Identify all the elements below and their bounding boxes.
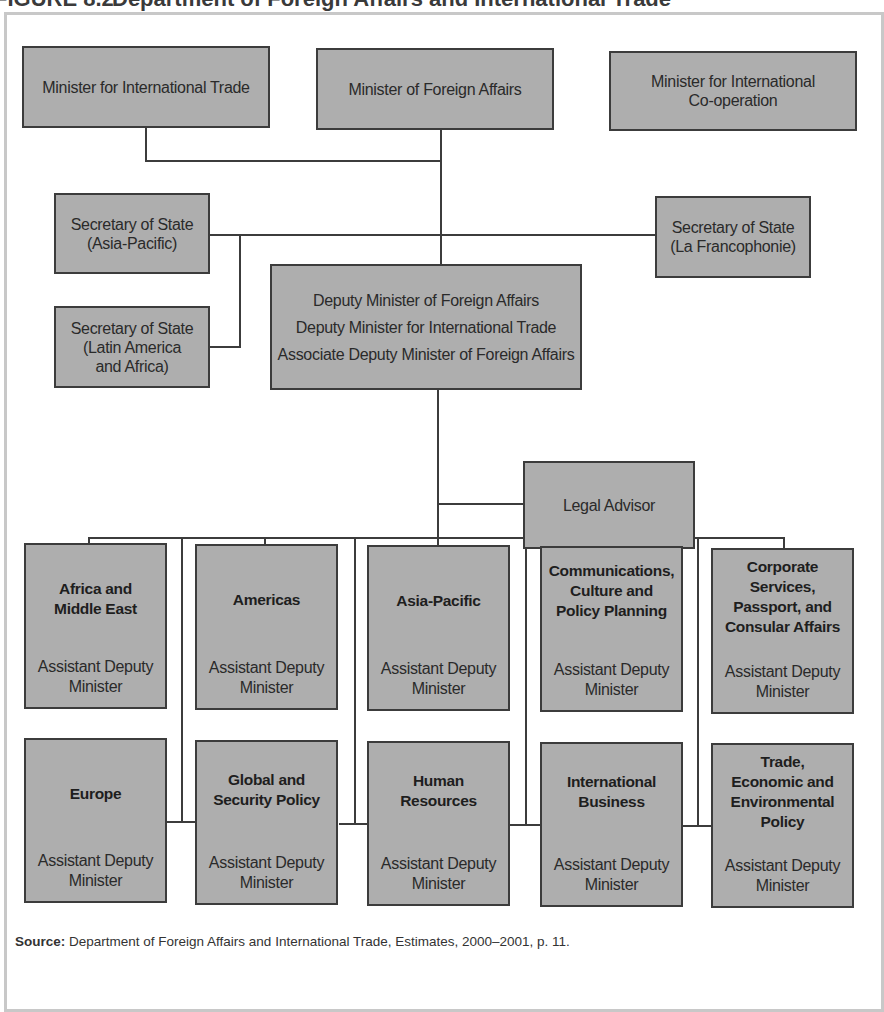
connector-trade-minister-drop xyxy=(145,126,147,162)
connector-long-4 xyxy=(697,537,699,827)
connector-stub-1 xyxy=(166,821,196,823)
unit-role-line: Assistant Deputy xyxy=(542,660,681,680)
unit-name-line: Culture and xyxy=(570,581,653,601)
unit-name: Asia-Pacific xyxy=(369,577,508,625)
box-label: Minister of Foreign Affairs xyxy=(348,80,521,99)
box-label-line: and Africa) xyxy=(95,357,168,376)
unit-name-line: Services, xyxy=(750,577,815,597)
unit-role-line: Assistant Deputy xyxy=(713,856,852,876)
minister-international-cooperation: Minister for International Co-operation xyxy=(609,51,857,131)
unit-name: Global and Security Policy xyxy=(197,766,336,814)
unit-name-line: Security Policy xyxy=(213,790,320,810)
unit-name-line: Business xyxy=(578,792,645,812)
unit-role: Assistant Deputy Minister xyxy=(542,855,681,895)
unit-role-line: Minister xyxy=(713,682,852,702)
unit-role: Assistant Deputy Minister xyxy=(26,657,165,697)
connector-latin-america-stub xyxy=(209,346,241,348)
secretary-latin-america-africa: Secretary of State (Latin America and Af… xyxy=(54,306,210,388)
unit-name-line: Asia-Pacific xyxy=(396,591,480,611)
unit-role: Assistant Deputy Minister xyxy=(26,851,165,891)
unit-name: Corporate Services, Passport, and Consul… xyxy=(713,554,852,640)
connector-stub-3 xyxy=(510,824,540,826)
connector-secretaries-bus xyxy=(209,234,657,236)
box-label-line: (La Francophonie) xyxy=(670,237,796,256)
unit-name-line: Consular Affairs xyxy=(725,617,840,637)
unit-name: Africa and Middle East xyxy=(26,575,165,623)
minister-foreign-affairs: Minister of Foreign Affairs xyxy=(316,48,554,130)
unit-role-line: Minister xyxy=(369,874,508,894)
unit-role-line: Assistant Deputy xyxy=(369,659,508,679)
connector-stub-2 xyxy=(339,823,369,825)
unit-role-line: Minister xyxy=(369,679,508,699)
secretary-la-francophonie: Secretary of State (La Francophonie) xyxy=(655,196,811,278)
unit-role: Assistant Deputy Minister xyxy=(713,662,852,702)
unit-asia-pacific: Asia-Pacific Assistant Deputy Minister xyxy=(367,545,510,711)
unit-trade-economic-environmental-policy: Trade, Economic and Environmental Policy… xyxy=(711,743,854,908)
connector-long-2 xyxy=(354,537,356,825)
unit-name-line: Human xyxy=(413,771,464,791)
unit-name: Human Resources xyxy=(369,767,508,815)
unit-role-line: Minister xyxy=(26,677,165,697)
unit-role-line: Assistant Deputy xyxy=(26,851,165,871)
unit-name-line: Europe xyxy=(70,784,122,804)
box-label: Legal Advisor xyxy=(563,496,655,515)
unit-name-line: International xyxy=(567,772,656,792)
unit-name-line: Trade, xyxy=(761,752,805,772)
connector-legal-advisor xyxy=(437,503,525,505)
deputy-ministers: Deputy Minister of Foreign Affairs Deput… xyxy=(270,264,582,390)
unit-role-line: Minister xyxy=(542,875,681,895)
unit-name-line: Corporate xyxy=(747,557,818,577)
box-label-line: Minister for International xyxy=(651,72,815,91)
unit-name: International Business xyxy=(542,768,681,816)
unit-role-line: Minister xyxy=(197,873,336,893)
box-label-line: Secretary of State xyxy=(672,218,795,237)
connector-stub-4 xyxy=(681,825,713,827)
unit-name: Europe xyxy=(26,770,165,818)
unit-role-line: Assistant Deputy xyxy=(713,662,852,682)
unit-communications-culture-policy: Communications, Culture and Policy Plann… xyxy=(540,546,683,712)
unit-role: Assistant Deputy Minister xyxy=(197,853,336,893)
box-label-line: Deputy Minister of Foreign Affairs xyxy=(313,291,539,310)
unit-role-line: Assistant Deputy xyxy=(26,657,165,677)
unit-name-line: Africa and xyxy=(59,579,132,599)
box-label-line: Secretary of State xyxy=(71,215,194,234)
box-label-line: Deputy Minister for International Trade xyxy=(296,318,556,337)
source-text: Department of Foreign Affairs and Intern… xyxy=(65,934,570,949)
connector-long-1 xyxy=(181,537,183,823)
legal-advisor: Legal Advisor xyxy=(523,461,695,549)
unit-role: Assistant Deputy Minister xyxy=(369,854,508,894)
minister-international-trade: Minister for International Trade xyxy=(22,46,270,128)
unit-name-line: Middle East xyxy=(54,599,137,619)
unit-corporate-services-passport-consular: Corporate Services, Passport, and Consul… xyxy=(711,548,854,714)
unit-name: Communications, Culture and Policy Plann… xyxy=(542,558,681,624)
unit-name-line: Passport, and xyxy=(733,597,832,617)
box-label-line: Associate Deputy Minister of Foreign Aff… xyxy=(278,345,575,364)
connector-trade-minister xyxy=(145,160,441,162)
source-label: Source: xyxy=(15,934,65,949)
unit-name-line: Global and xyxy=(228,770,305,790)
unit-role-line: Assistant Deputy xyxy=(369,854,508,874)
unit-role: Assistant Deputy Minister xyxy=(369,659,508,699)
unit-name-line: Economic and xyxy=(731,772,833,792)
unit-role: Assistant Deputy Minister xyxy=(542,660,681,700)
unit-europe: Europe Assistant Deputy Minister xyxy=(24,738,167,903)
unit-role-line: Assistant Deputy xyxy=(197,853,336,873)
connector-latin-america-drop xyxy=(239,234,241,348)
figure-number: FIGURE 8.2 xyxy=(0,0,114,12)
unit-role-line: Minister xyxy=(197,678,336,698)
unit-role-line: Minister xyxy=(542,680,681,700)
unit-name-line: Resources xyxy=(400,791,477,811)
box-label-line: (Latin America xyxy=(83,338,181,357)
unit-role-line: Minister xyxy=(26,871,165,891)
connector-foreign-minister-to-deputy xyxy=(440,128,442,266)
figure-heading: Department of Foreign Affairs and Intern… xyxy=(112,0,671,12)
unit-international-business: International Business Assistant Deputy … xyxy=(540,742,683,907)
unit-name-line: Americas xyxy=(233,590,300,610)
box-label-line: Secretary of State xyxy=(71,319,194,338)
unit-americas: Americas Assistant Deputy Minister xyxy=(195,544,338,710)
unit-name: Americas xyxy=(197,576,336,624)
connector-long-3 xyxy=(525,537,527,826)
unit-role: Assistant Deputy Minister xyxy=(713,856,852,896)
unit-name-line: Policy xyxy=(761,812,805,832)
unit-global-security-policy: Global and Security Policy Assistant Dep… xyxy=(195,740,338,905)
